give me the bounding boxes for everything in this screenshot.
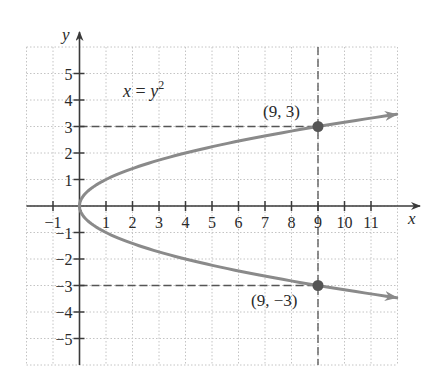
highlighted-point	[313, 121, 324, 132]
x-tick-label: 6	[235, 214, 243, 231]
y-tick-label: −1	[55, 225, 72, 242]
point-label-upper: (9, 3)	[263, 102, 300, 121]
point-label-lower: (9, −3)	[251, 291, 297, 310]
x-tick-label: 2	[129, 214, 137, 231]
axes	[27, 32, 421, 365]
x-tick-label: 3	[155, 214, 163, 231]
y-tick-label: −2	[55, 251, 72, 268]
x-tick-label: 4	[182, 214, 190, 231]
y-tick-label: −4	[55, 304, 72, 321]
x-axis-label: x	[407, 209, 416, 228]
equation-label: x = y2	[122, 78, 164, 101]
y-tick-label: 4	[65, 92, 73, 109]
y-tick-label: −3	[55, 278, 72, 295]
highlighted-point	[313, 280, 324, 291]
y-tick-label: 1	[65, 172, 73, 189]
parabola-chart: −11234567891011−5−4−3−2−112345 x y x = y…	[0, 0, 446, 378]
x-tick-label: 8	[288, 214, 296, 231]
x-tick-label: 5	[208, 214, 216, 231]
y-tick-label: 3	[65, 119, 73, 136]
x-tick-label: 11	[363, 214, 378, 231]
x-tick-label: 1	[102, 214, 110, 231]
y-tick-label: −5	[55, 331, 72, 348]
x-tick-label: 9	[314, 214, 322, 231]
y-tick-label: 5	[65, 66, 73, 83]
x-tick-label: 7	[261, 214, 269, 231]
y-tick-label: 2	[65, 145, 73, 162]
x-tick-label: 10	[337, 214, 353, 231]
y-axis-label: y	[60, 25, 70, 44]
